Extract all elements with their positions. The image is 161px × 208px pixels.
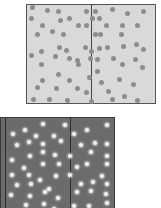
gray-dot-icon <box>125 11 130 16</box>
gray-dot-icon <box>110 7 115 12</box>
gray-dot-icon <box>97 16 102 21</box>
gray-dot-icon <box>122 94 127 99</box>
gray-dot-icon <box>76 23 81 28</box>
gray-dot-icon <box>84 90 89 95</box>
white-sparkle-dot-icon <box>15 183 19 187</box>
gray-dot-icon <box>84 9 89 14</box>
white-sparkle-dot-icon <box>72 204 76 208</box>
gray-dot-icon <box>110 97 115 102</box>
gray-dot-icon <box>64 48 69 53</box>
gray-dot-icon <box>135 23 140 28</box>
gray-dot-icon <box>105 45 110 50</box>
gray-dot-icon <box>134 42 139 47</box>
white-sparkle-dot-icon <box>27 173 31 177</box>
gray-dot-icon <box>140 65 145 70</box>
gray-dot-icon <box>67 16 72 21</box>
gray-dot-icon <box>95 57 100 62</box>
white-sparkle-dot-icon <box>59 139 63 143</box>
gray-dot-icon <box>39 49 44 54</box>
white-sparkle-dot-icon <box>68 173 72 177</box>
white-sparkle-dot-icon <box>47 187 51 191</box>
gray-dot-icon <box>119 32 124 37</box>
white-sparkle-dot-icon <box>79 182 83 186</box>
gray-dot-icon <box>111 56 116 61</box>
gray-dot-icon <box>67 78 72 83</box>
white-sparkle-dot-icon <box>11 132 15 136</box>
white-sparkle-dot-icon <box>85 128 89 132</box>
gray-dot-icon <box>141 47 146 52</box>
gray-dot-icon <box>131 82 136 87</box>
white-sparkle-dot-icon <box>9 193 13 197</box>
white-sparkle-dot-icon <box>24 203 28 207</box>
gray-dot-icon <box>120 23 125 28</box>
gray-dot-icon <box>35 32 40 37</box>
gray-dot-icon <box>99 80 104 85</box>
top-pattern-panel <box>26 4 156 104</box>
white-sparkle-dot-icon <box>10 158 14 162</box>
gray-dot-icon <box>120 62 125 67</box>
white-sparkle-dot-icon <box>105 182 109 186</box>
gray-dot-icon <box>75 86 80 91</box>
white-sparkle-dot-icon <box>85 162 89 166</box>
gray-dot-icon <box>57 45 62 50</box>
gray-dot-icon <box>45 8 50 13</box>
gray-dot-icon <box>98 32 103 37</box>
gray-dot-icon <box>56 72 61 77</box>
white-sparkle-dot-icon <box>43 190 47 194</box>
white-sparkle-dot-icon <box>105 123 109 127</box>
white-sparkle-dot-icon <box>57 162 61 166</box>
gray-dot-icon <box>35 85 40 90</box>
gray-dot-icon <box>133 57 138 62</box>
gray-dot-icon <box>84 23 89 28</box>
bottom-panel-divider-middle <box>70 118 71 208</box>
gray-dot-icon <box>83 45 88 50</box>
gray-dot-icon <box>29 53 34 58</box>
white-sparkle-dot-icon <box>10 173 14 177</box>
gray-dot-icon <box>47 97 52 102</box>
white-sparkle-dot-icon <box>56 196 60 200</box>
bottom-pattern-panel <box>0 117 115 208</box>
white-sparkle-dot-icon <box>23 128 27 132</box>
white-sparkle-dot-icon <box>87 204 91 208</box>
gray-dot-icon <box>54 86 59 91</box>
white-sparkle-dot-icon <box>91 180 95 184</box>
gray-dot-icon <box>67 56 72 61</box>
gray-dot-icon <box>76 62 81 67</box>
white-sparkle-dot-icon <box>105 154 109 158</box>
gray-dot-icon <box>56 9 61 14</box>
white-sparkle-dot-icon <box>93 141 97 145</box>
white-sparkle-dot-icon <box>52 134 56 138</box>
gray-dot-icon <box>93 9 98 14</box>
gray-dot-icon <box>29 16 34 21</box>
gray-dot-icon <box>61 32 66 37</box>
white-sparkle-dot-icon <box>41 142 45 146</box>
white-sparkle-dot-icon <box>41 162 45 166</box>
white-sparkle-dot-icon <box>29 182 33 186</box>
gray-dot-icon <box>30 5 35 10</box>
white-sparkle-dot-icon <box>72 132 76 136</box>
gray-dot-icon <box>141 9 146 14</box>
white-sparkle-dot-icon <box>54 174 58 178</box>
white-sparkle-dot-icon <box>75 165 79 169</box>
gray-dot-icon <box>65 98 70 103</box>
white-sparkle-dot-icon <box>89 189 93 193</box>
gray-dot-icon <box>135 98 140 103</box>
white-sparkle-dot-icon <box>68 154 72 158</box>
white-sparkle-dot-icon <box>79 143 83 147</box>
white-sparkle-dot-icon <box>28 194 32 198</box>
white-sparkle-dot-icon <box>38 178 42 182</box>
gray-dot-icon <box>58 18 63 23</box>
white-sparkle-dot-icon <box>75 190 79 194</box>
white-sparkle-dot-icon <box>104 192 108 196</box>
white-sparkle-dot-icon <box>41 122 45 126</box>
gray-dot-icon <box>40 23 45 28</box>
white-sparkle-dot-icon <box>105 142 109 146</box>
gray-dot-icon <box>95 69 100 74</box>
white-sparkle-dot-icon <box>105 162 109 166</box>
gray-dot-icon <box>106 89 111 94</box>
white-sparkle-dot-icon <box>27 140 31 144</box>
gray-dot-icon <box>89 49 94 54</box>
white-sparkle-dot-icon <box>28 154 32 158</box>
bottom-panel-divider-left <box>5 118 6 208</box>
gray-dot-icon <box>89 99 94 104</box>
